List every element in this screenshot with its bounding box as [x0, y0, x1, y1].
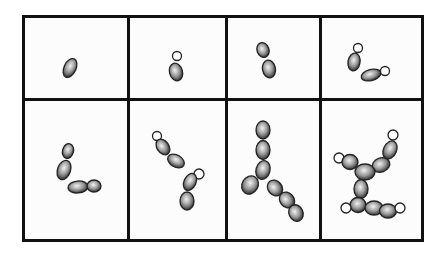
panel-4-cells [347, 44, 390, 83]
panel-7-cells [238, 121, 306, 224]
cells-layer [0, 0, 446, 256]
yeast-budding-diagram [0, 0, 446, 256]
panel-3-cells [255, 41, 277, 79]
panel-2-cells [167, 52, 184, 83]
panel-1-cells [60, 56, 79, 79]
panel-6-cells [153, 132, 205, 211]
panel-8-cells [334, 130, 405, 218]
panel-5-cells [54, 142, 101, 194]
